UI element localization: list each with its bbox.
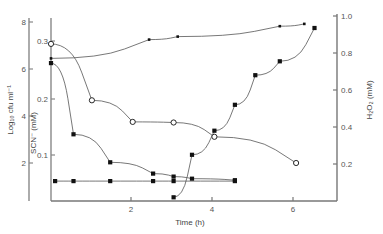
data-point xyxy=(151,172,155,176)
data-point xyxy=(176,35,179,38)
data-point xyxy=(279,25,282,28)
h2o2-tick-04: 0.4 xyxy=(341,123,353,132)
data-point xyxy=(89,98,94,103)
h2o2-tick-02: 0.2 xyxy=(341,160,353,169)
data-point xyxy=(151,179,155,183)
cfu-tick-8: 8 xyxy=(22,18,27,27)
time-tick-6: 6 xyxy=(291,205,296,214)
time-tick-2: 2 xyxy=(129,205,134,214)
data-series-layer xyxy=(48,23,316,200)
data-point xyxy=(253,73,257,77)
cfu-axis-label: Log₁₀ cfu ml⁻¹ xyxy=(6,85,15,135)
data-point xyxy=(171,120,176,125)
axis-cfu: 8 6 4 2 Log₁₀ cfu ml⁻¹ xyxy=(6,18,33,201)
data-point xyxy=(50,57,53,60)
h2o2-tick-10: 1.0 xyxy=(341,12,353,21)
data-point xyxy=(172,179,176,183)
data-point xyxy=(172,175,176,179)
figure-container: 8 6 4 2 Log₁₀ cfu ml⁻¹ 0.3 0.2 0.1 SCN⁻ … xyxy=(0,0,383,234)
data-point xyxy=(108,179,112,183)
data-point xyxy=(71,132,75,136)
data-point xyxy=(108,160,112,164)
cfu-tick-4: 4 xyxy=(22,112,27,121)
series-line-0 xyxy=(51,24,304,59)
series-line-3 xyxy=(51,44,296,163)
h2o2-axis-label: H₂O₂ (mM) xyxy=(365,80,374,119)
data-point xyxy=(312,26,316,30)
data-point xyxy=(212,129,216,133)
data-point xyxy=(303,23,306,26)
time-tick-4: 4 xyxy=(210,205,215,214)
series-line-4 xyxy=(174,28,315,197)
data-point xyxy=(71,179,75,183)
data-point xyxy=(190,153,194,157)
cfu-tick-6: 6 xyxy=(22,65,27,74)
h2o2-tick-06: 0.6 xyxy=(341,86,353,95)
data-point xyxy=(48,41,53,46)
scn-axis-label: SCN⁻ (mM) xyxy=(29,112,38,154)
data-point xyxy=(294,160,299,165)
scn-tick-01: 0.1 xyxy=(37,151,49,160)
data-point xyxy=(233,179,237,183)
data-point xyxy=(53,179,57,183)
axis-time: 2 4 6 Time (h) xyxy=(51,197,337,227)
axis-h2o2: 1.0 0.8 0.6 0.4 0.2 H₂O₂ (mM) xyxy=(333,12,374,201)
chart-canvas: 8 6 4 2 Log₁₀ cfu ml⁻¹ 0.3 0.2 0.1 SCN⁻ … xyxy=(0,0,383,234)
data-point xyxy=(233,103,237,107)
data-point xyxy=(172,195,176,199)
h2o2-tick-08: 0.8 xyxy=(341,49,353,58)
time-axis-label: Time (h) xyxy=(175,218,205,227)
data-point xyxy=(148,38,151,41)
cfu-tick-2: 2 xyxy=(22,159,27,168)
data-point xyxy=(49,61,53,65)
data-point xyxy=(130,119,135,124)
data-point xyxy=(278,59,282,63)
scn-tick-02: 0.2 xyxy=(37,95,49,104)
scn-tick-03: 0.3 xyxy=(37,37,49,46)
data-point xyxy=(190,177,194,181)
